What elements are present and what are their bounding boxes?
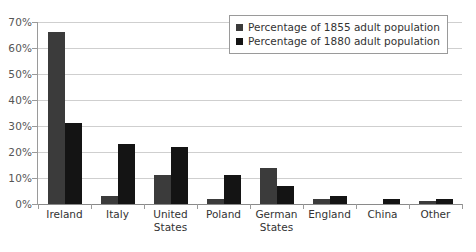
bar [330, 196, 347, 204]
x-axis-tick [38, 204, 39, 209]
x-axis-labels: IrelandItalyUnited StatesPolandGerman St… [38, 208, 462, 252]
bar [48, 32, 65, 204]
bar-group [38, 22, 91, 204]
legend-item: Percentage of 1855 adult population [236, 20, 440, 34]
bar [277, 186, 294, 204]
y-axis-tick [32, 22, 37, 23]
chart-legend: Percentage of 1855 adult population Perc… [229, 15, 448, 54]
y-axis-tick-label: 70% [8, 16, 32, 28]
legend-swatch-icon [236, 38, 243, 45]
y-axis-tick [32, 178, 37, 179]
bar [436, 199, 453, 204]
bar [419, 201, 436, 204]
x-axis-tick-label: Ireland [38, 208, 91, 221]
bar [101, 196, 118, 204]
legend-item: Percentage of 1880 adult population [236, 34, 440, 48]
bar [154, 175, 171, 204]
x-axis-tick [197, 204, 198, 209]
x-axis-tick [409, 204, 410, 209]
x-axis-tick [91, 204, 92, 209]
bar [224, 175, 241, 204]
y-axis-tick-label: 40% [8, 94, 32, 106]
x-axis-tick-label: German States [250, 208, 303, 234]
x-axis-tick [356, 204, 357, 209]
bar-group [144, 22, 197, 204]
bar [313, 199, 330, 204]
x-axis-tick-label: United States [144, 208, 197, 234]
x-axis-tick-label: Other [409, 208, 462, 221]
y-axis-tick-label: 30% [8, 120, 32, 132]
x-axis-tick [462, 204, 463, 209]
x-axis-tick [250, 204, 251, 209]
y-axis-tick-label: 0% [15, 198, 32, 210]
bar [260, 168, 277, 204]
y-axis-tick-label: 20% [8, 146, 32, 158]
x-axis-tick [144, 204, 145, 209]
y-axis-tick-label: 50% [8, 68, 32, 80]
bar-group [91, 22, 144, 204]
y-axis-tick [32, 48, 37, 49]
bar [171, 147, 188, 204]
x-axis-tick-label: China [356, 208, 409, 221]
y-axis-tick-label: 60% [8, 42, 32, 54]
y-axis-labels: 0%10%20%30%40%50%60%70% [0, 0, 36, 252]
bar [118, 144, 135, 204]
y-axis-tick [32, 126, 37, 127]
y-axis-tick [32, 152, 37, 153]
legend-label: Percentage of 1880 adult population [248, 35, 440, 47]
bar [383, 199, 400, 204]
legend-swatch-icon [236, 24, 243, 31]
x-axis-tick-label: Italy [91, 208, 144, 221]
bar [65, 123, 82, 204]
x-axis-tick-label: Poland [197, 208, 250, 221]
y-axis-tick [32, 204, 37, 205]
bar [207, 199, 224, 204]
y-axis-tick [32, 100, 37, 101]
y-axis-tick [32, 74, 37, 75]
legend-label: Percentage of 1855 adult population [248, 21, 440, 33]
y-axis-tick-label: 10% [8, 172, 32, 184]
x-axis-tick-label: England [303, 208, 356, 221]
x-axis-tick [303, 204, 304, 209]
bar-chart: 0%10%20%30%40%50%60%70% IrelandItalyUnit… [0, 0, 476, 252]
